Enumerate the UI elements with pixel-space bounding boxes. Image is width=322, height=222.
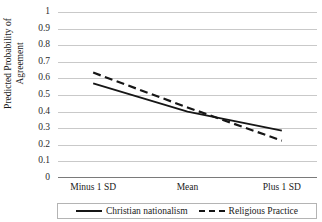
y-axis-tick-label: 0: [2, 173, 50, 183]
y-axis-tick-label: 0.1: [2, 156, 50, 166]
y-axis-tick-label: 1: [2, 7, 50, 17]
y-axis-tick-label: 0.8: [2, 40, 50, 50]
x-axis-tick-label: Plus 1 SD: [237, 181, 322, 193]
x-axis-tick-label: Mean: [143, 181, 233, 193]
y-axis-tick-label: 0.9: [2, 24, 50, 34]
x-axis-tick-label: Minus 1 SD: [48, 181, 138, 193]
y-axis-tick-labels: 10.90.80.70.60.50.40.30.20.10: [0, 12, 54, 178]
y-axis-tick-label: 0.7: [2, 57, 50, 67]
y-axis-tick-label: 0.3: [2, 123, 50, 133]
series-line: [93, 73, 282, 141]
legend-swatch-solid-line-icon: [76, 210, 102, 212]
plot-area: [58, 12, 317, 178]
y-axis-tick-label: 0.2: [2, 140, 50, 150]
y-axis-tick-label: 0.6: [2, 73, 50, 83]
legend-item-label: Christian nationalism: [106, 206, 188, 216]
legend-item-label: Religious Practice: [229, 206, 298, 216]
legend-item-religious-practice[interactable]: Religious Practice: [199, 206, 298, 216]
x-axis-tick-labels: Minus 1 SDMeanPlus 1 SD: [58, 181, 317, 195]
legend-swatch-dashed-line-icon: [199, 210, 225, 212]
y-axis-tick-label: 0.5: [2, 90, 50, 100]
legend-item-christian-nationalism[interactable]: Christian nationalism: [76, 206, 188, 216]
y-axis-tick-label: 0.4: [2, 107, 50, 117]
legend: Christian nationalism Religious Practice: [57, 203, 317, 219]
series-layer: [58, 12, 317, 178]
chart-title: [60, 0, 270, 3]
